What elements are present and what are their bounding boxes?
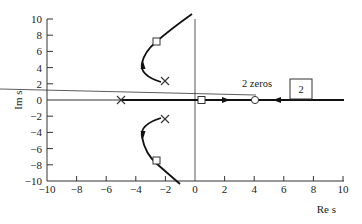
x-tick-labels: −10 −8 −6 −4 −2 0 2 4 6 8 10 bbox=[38, 183, 349, 195]
zeros-annotation: 2 zeros bbox=[242, 78, 272, 89]
y-tick-label: 10 bbox=[31, 13, 43, 25]
y-tick-label: −2 bbox=[30, 110, 42, 122]
y-tick-labels: 10 8 6 4 2 0 −2 −4 −6 −8 −10 bbox=[25, 13, 43, 187]
x-ticks bbox=[77, 176, 343, 181]
upper-locus-branch bbox=[142, 14, 192, 82]
x-tick-label: −4 bbox=[130, 183, 142, 195]
closed-loop-square-icon bbox=[198, 97, 205, 104]
x-tick-label: 4 bbox=[251, 183, 257, 195]
x-tick-label: −2 bbox=[160, 183, 172, 195]
pole-x-icon bbox=[161, 115, 169, 123]
x-tick-label: 6 bbox=[281, 183, 287, 195]
y-tick-label: 8 bbox=[37, 29, 43, 41]
arrow-right-icon bbox=[222, 97, 230, 103]
x-tick-label: 0 bbox=[192, 183, 198, 195]
y-tick-label: 0 bbox=[37, 94, 43, 106]
x-axis-title: Re s bbox=[317, 203, 336, 215]
y-tick-label: 2 bbox=[37, 78, 43, 90]
y-tick-label: −4 bbox=[30, 126, 42, 138]
arrow-left-icon bbox=[273, 97, 281, 103]
closed-loop-square-icon bbox=[153, 38, 160, 45]
y-tick-label: 4 bbox=[37, 62, 43, 74]
y-tick-label: −8 bbox=[30, 159, 42, 171]
zero-circle-icon bbox=[251, 96, 258, 103]
root-locus-plot: 10 8 6 4 2 0 −2 −4 −6 −8 −10 −10 −8 −6 −… bbox=[0, 0, 362, 224]
y-tick-label: −6 bbox=[30, 143, 42, 155]
y-ticks bbox=[47, 19, 53, 165]
lower-locus-branch bbox=[142, 118, 180, 184]
pole-x-icon bbox=[161, 77, 169, 85]
x-tick-label: 8 bbox=[311, 183, 317, 195]
x-tick-label: 10 bbox=[338, 183, 350, 195]
x-tick-label: 2 bbox=[222, 183, 228, 195]
y-tick-label: 6 bbox=[37, 45, 43, 57]
closed-loop-square-icon bbox=[153, 157, 160, 164]
x-tick-label: −10 bbox=[38, 183, 56, 195]
y-axis-title: Im s bbox=[12, 90, 24, 109]
x-tick-label: −6 bbox=[100, 183, 112, 195]
gain-label: 2 bbox=[298, 84, 303, 95]
x-tick-label: −8 bbox=[71, 183, 83, 195]
